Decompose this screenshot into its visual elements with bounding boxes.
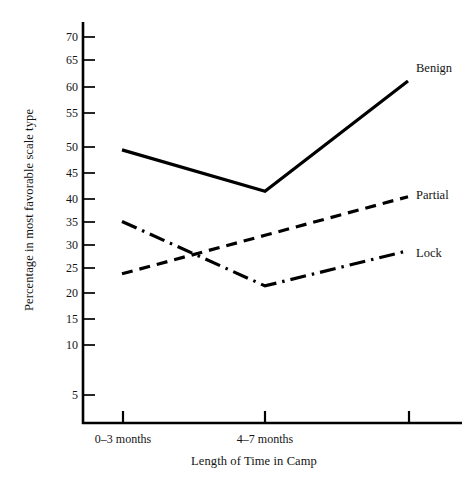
x-tick-label-2: 4–7 months	[237, 432, 293, 447]
y-tick-label-70: 70	[48, 30, 78, 45]
y-tick-label-35: 35	[48, 215, 78, 230]
y-tick-label-25: 25	[48, 261, 78, 276]
x-axis-title: Length of Time in Camp	[0, 454, 470, 469]
y-tick-label-65: 65	[48, 53, 78, 68]
y-tick-label-10: 10	[48, 338, 78, 353]
x-axis-ticks	[123, 411, 409, 423]
y-tick-label-45: 45	[48, 166, 78, 181]
y-axis-title: Percentage in most favorable scale type	[22, 60, 37, 360]
line-chart: 70 65 60 55 50 45 40 35 30 25 20 15 10 5…	[0, 0, 470, 481]
x-tick-label-1: 0–3 months	[95, 432, 151, 447]
y-tick-label-30: 30	[48, 238, 78, 253]
y-tick-label-20: 20	[48, 286, 78, 301]
y-tick-label-50: 50	[48, 140, 78, 155]
series-line-lock	[122, 222, 408, 286]
y-tick-label-5: 5	[48, 388, 78, 403]
series-label-partial: Partial	[416, 188, 449, 203]
series-label-lock: Lock	[416, 246, 442, 261]
y-tick-label-40: 40	[48, 192, 78, 207]
y-tick-label-15: 15	[48, 312, 78, 327]
y-axis-ticks	[84, 37, 95, 395]
y-tick-label-55: 55	[48, 106, 78, 121]
series-line-benign	[122, 81, 408, 191]
y-tick-label-60: 60	[48, 80, 78, 95]
series-label-benign: Benign	[416, 61, 452, 76]
